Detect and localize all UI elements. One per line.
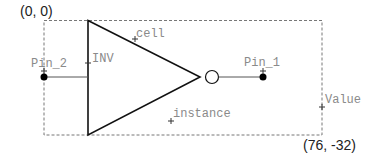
pin-1-label: Pin_1	[244, 56, 280, 70]
value-label: Value	[325, 93, 361, 107]
origin-label: (0, 0)	[20, 3, 53, 19]
inv-label: INV	[92, 52, 114, 66]
extent-label: (76, -32)	[303, 137, 356, 153]
instance-label: instance	[173, 107, 231, 121]
cell-label: cell	[136, 27, 165, 41]
pin-2-dot[interactable]	[41, 74, 48, 81]
inverter-bubble	[206, 71, 219, 84]
pin-2-label: Pin_2	[31, 57, 67, 71]
inverter-symbol-diagram: (0, 0) (76, -32) cell INV Pin_2 Pin_1 in…	[0, 0, 382, 157]
pin-1-dot[interactable]	[260, 74, 267, 81]
